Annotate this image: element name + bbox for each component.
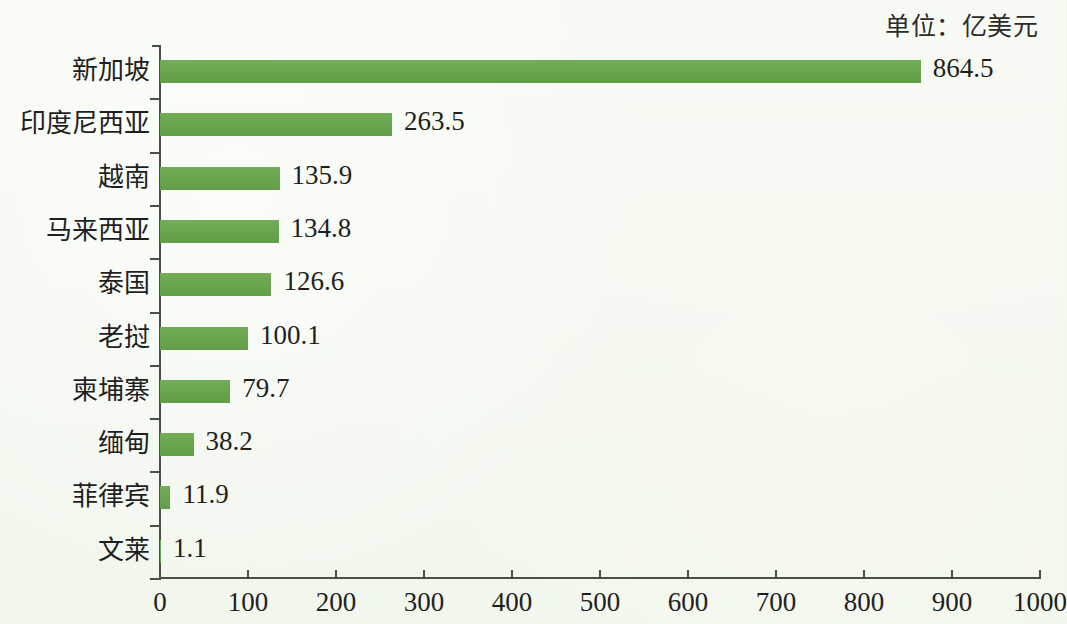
bar [160,327,248,350]
bar-value-label: 864.5 [933,53,994,83]
bar-row: 11.9 [160,471,1040,524]
bar-value-label: 126.6 [283,266,344,296]
category-label: 缅甸 [12,429,160,459]
bar-row: 79.7 [160,365,1040,418]
bar-value-label: 134.8 [291,213,352,243]
x-tick-label: 800 [844,586,885,618]
x-tick-label: 600 [668,586,709,618]
plot-area: 864.5263.5135.9134.8126.6100.179.738.211… [160,45,1040,578]
bar-value-label: 100.1 [260,320,321,350]
category-label: 菲律宾 [12,482,160,512]
unit-annotation: 单位：亿美元 [885,6,1038,42]
category-label: 新加坡 [12,56,160,86]
bar-row: 38.2 [160,418,1040,471]
x-tick-mark [335,570,337,579]
x-tick-label: 0 [153,586,167,618]
y-axis-category-labels: 新加坡印度尼西亚越南马来西亚泰国老挝柬埔寨缅甸菲律宾文莱 [0,45,160,578]
bar-value-label: 38.2 [206,426,253,456]
bar-value-label: 135.9 [292,160,353,190]
bar [160,113,392,136]
bar [160,60,921,83]
category-label: 柬埔寨 [12,376,160,406]
category-label: 印度尼西亚 [12,109,160,139]
category-label: 马来西亚 [12,216,160,246]
category-label: 泰国 [12,269,160,299]
bar-value-label: 1.1 [173,533,207,563]
bar [160,540,161,563]
x-tick-mark [687,570,689,579]
bar-row: 263.5 [160,98,1040,151]
x-tick-mark [159,570,161,579]
bar-value-label: 79.7 [242,373,289,403]
x-tick-label: 200 [316,586,357,618]
bar-row: 135.9 [160,152,1040,205]
category-label: 老挝 [12,323,160,353]
x-tick-mark [1039,570,1041,579]
x-tick-label: 300 [404,586,445,618]
x-tick-mark [775,570,777,579]
x-tick-mark [863,570,865,579]
bar [160,167,280,190]
x-tick-mark [511,570,513,579]
bar-value-label: 11.9 [182,479,228,509]
bar [160,380,230,403]
bar [160,220,279,243]
category-label: 文莱 [12,536,160,566]
x-tick-label: 700 [756,586,797,618]
x-tick-mark [247,570,249,579]
x-tick-label: 1000 [1013,586,1067,618]
bar-row: 126.6 [160,258,1040,311]
x-tick-mark [423,570,425,579]
bar-row: 100.1 [160,312,1040,365]
x-tick-label: 100 [228,586,269,618]
bar [160,486,170,509]
x-tick-mark [599,570,601,579]
bar-row: 134.8 [160,205,1040,258]
bar [160,273,271,296]
x-tick-mark [951,570,953,579]
x-tick-label: 500 [580,586,621,618]
bar [160,433,194,456]
x-tick-label: 900 [932,586,973,618]
x-tick-label: 400 [492,586,533,618]
bar-value-label: 263.5 [404,106,465,136]
bar-row: 864.5 [160,45,1040,98]
category-label: 越南 [12,163,160,193]
